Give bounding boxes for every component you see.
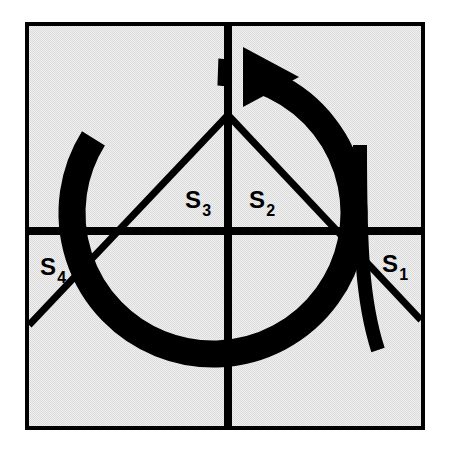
arrow-neck-gap	[232, 44, 243, 110]
label-s2-base: S	[249, 186, 265, 213]
label-s1-base: S	[382, 250, 398, 277]
quadrant-diagram: S 3 S 2 S 4 S 1	[0, 0, 458, 457]
label-s3-base: S	[185, 186, 201, 213]
label-s4-subscript: 4	[57, 269, 66, 286]
label-s2-subscript: 2	[266, 202, 275, 219]
figure-root: S 3 S 2 S 4 S 1	[0, 0, 458, 457]
label-s3-subscript: 3	[202, 202, 211, 219]
label-s1-subscript: 1	[399, 266, 408, 283]
label-s4-base: S	[40, 253, 56, 280]
